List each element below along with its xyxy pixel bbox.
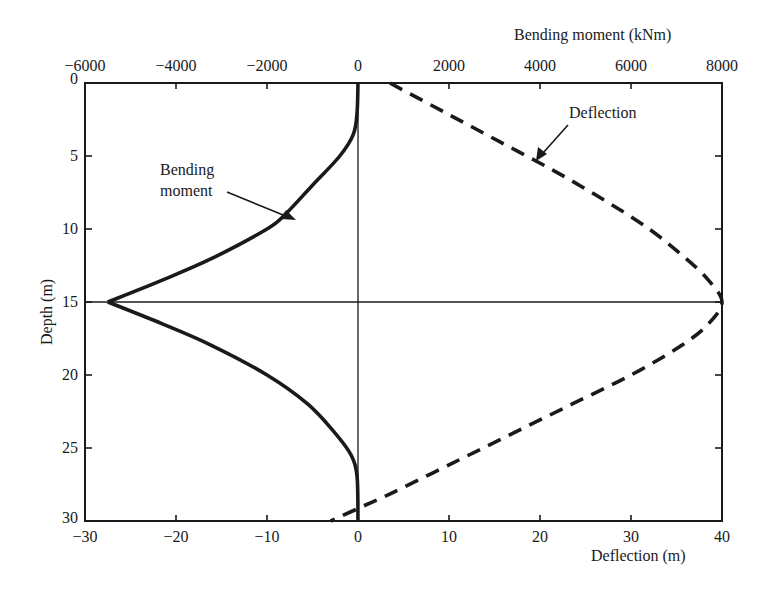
bottom-tick-label: −10	[254, 528, 279, 545]
bottom-tick-label: 40	[714, 528, 730, 545]
bending-moment-annotation-line2: moment	[160, 182, 213, 199]
left-tick-label: 30	[62, 509, 78, 526]
left-axis-ticks: 051015202530	[62, 70, 92, 526]
left-tick-label: 5	[70, 147, 78, 164]
deflection-arrow-icon	[536, 125, 568, 161]
bottom-axis-ticks: −30−20−10010203040	[72, 515, 730, 545]
left-tick-label: 20	[62, 366, 78, 383]
chart: −6000−4000−200002000400060008000 −30−20−…	[0, 0, 775, 599]
bottom-tick-label: 10	[441, 528, 457, 545]
bending-moment-annotation-line1: Bending	[160, 161, 214, 179]
bending-moment-arrow-icon	[227, 192, 296, 220]
top-tick-label: 6000	[615, 57, 647, 74]
top-tick-label: 2000	[433, 57, 465, 74]
bottom-axis-title: Deflection (m)	[591, 547, 686, 565]
bottom-tick-label: 0	[354, 528, 362, 545]
bottom-tick-label: −20	[163, 528, 188, 545]
left-tick-label: 10	[62, 220, 78, 237]
top-tick-label: 0	[354, 57, 362, 74]
top-tick-label: 4000	[524, 57, 556, 74]
left-tick-label: 25	[62, 439, 78, 456]
top-tick-label: 8000	[706, 57, 738, 74]
top-axis-ticks: −6000−4000−200002000400060008000	[64, 57, 738, 89]
top-axis-title: Bending moment (kNm)	[514, 26, 671, 44]
bottom-tick-label: 30	[623, 528, 639, 545]
left-axis-title: Depth (m)	[38, 279, 56, 345]
left-tick-label: 15	[62, 293, 78, 310]
bottom-tick-label: 20	[532, 528, 548, 545]
left-tick-label: 0	[70, 70, 78, 87]
bottom-tick-label: −30	[72, 528, 97, 545]
top-tick-label: −2000	[246, 57, 287, 74]
top-tick-label: −4000	[155, 57, 196, 74]
deflection-annotation: Deflection	[569, 104, 637, 121]
